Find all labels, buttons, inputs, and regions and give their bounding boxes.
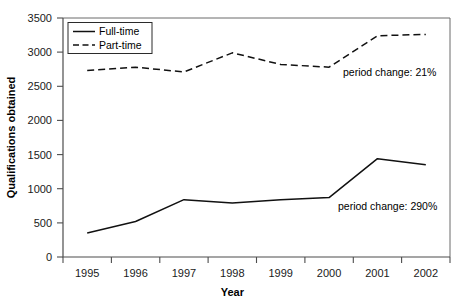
line-chart: 0 500 1000 1500 2000 2500 3000 3500 1995… (0, 0, 462, 305)
x-tick-label: 2001 (365, 267, 389, 279)
y-tick-label: 3500 (28, 12, 52, 24)
x-tick-label: 2002 (414, 267, 438, 279)
x-axis-title: Year (221, 286, 245, 298)
y-axis-tick-labels: 0 500 1000 1500 2000 2500 3000 3500 (28, 12, 52, 263)
x-tick-label: 1998 (220, 267, 244, 279)
legend-label-full-time: Full-time (99, 25, 139, 37)
annotation-full-time-period-change: period change: 290% (338, 200, 437, 212)
x-tick-label: 1997 (172, 267, 196, 279)
annotation-part-time-period-change: period change: 21% (343, 66, 436, 78)
chart-figure: 0 500 1000 1500 2000 2500 3000 3500 1995… (0, 0, 462, 305)
legend-label-part-time: Part-time (99, 39, 142, 51)
y-axis-title: Qualifications obtained (5, 77, 17, 199)
y-tick-label: 1000 (28, 183, 52, 195)
x-axis-ticks (63, 257, 450, 263)
y-tick-label: 2500 (28, 80, 52, 92)
chart-legend[interactable]: Full-time Part-time (68, 23, 152, 54)
y-tick-label: 1500 (28, 149, 52, 161)
y-tick-label: 2000 (28, 114, 52, 126)
y-tick-label: 3000 (28, 46, 52, 58)
y-axis-ticks (57, 18, 63, 257)
x-tick-label: 1999 (268, 267, 292, 279)
y-tick-label: 500 (34, 217, 52, 229)
x-tick-label: 2000 (317, 267, 341, 279)
x-tick-label: 1995 (75, 267, 99, 279)
y-tick-label: 0 (46, 251, 52, 263)
x-axis-tick-labels: 1995 1996 1997 1998 1999 2000 2001 2002 (75, 267, 438, 279)
x-tick-label: 1996 (123, 267, 147, 279)
